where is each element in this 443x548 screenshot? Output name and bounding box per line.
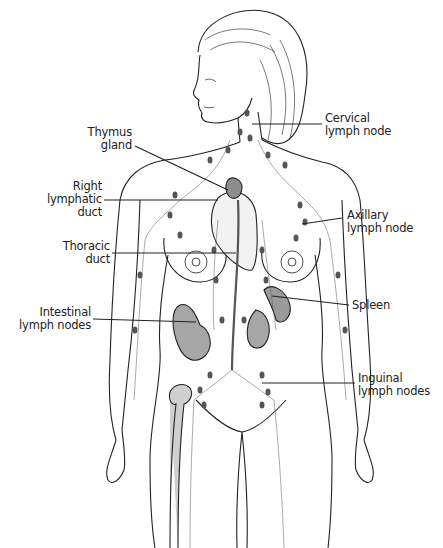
label-line: lymph nodes [8,319,91,332]
label-line: lymph node [347,222,443,235]
label-line: lymph node [325,125,435,138]
femur-bone [169,385,191,548]
label-line: gland [68,139,132,152]
label-line: duct [30,206,102,219]
label-thymus-gland: Thymus gland [68,126,132,152]
spleen [264,287,290,322]
label-cervical-lymph-node: Cervical lymph node [325,112,435,138]
heart [211,192,257,270]
left-breast [262,238,320,282]
body-illustration [0,0,443,548]
label-spleen: Spleen [352,299,432,312]
thymus-gland [226,178,242,198]
label-right-lymphatic-duct: Right lymphatic duct [30,180,102,219]
label-axillary-lymph-node: Axillary lymph node [347,209,443,235]
lymphatic-system-diagram: Thymus gland Right lymphatic duct Thorac… [0,0,443,548]
label-line: Spleen [352,299,432,312]
label-intestinal-lymph-nodes: Intestinal lymph nodes [8,306,91,332]
intestines [173,305,210,361]
leader-lines [93,124,355,383]
label-line: duct [40,253,110,266]
label-line: lymph nodes [358,385,443,398]
label-thoracic-duct: Thoracic duct [40,240,110,266]
label-inguinal-lymph-nodes: Inguinal lymph nodes [358,372,443,398]
face-outline [194,55,252,123]
